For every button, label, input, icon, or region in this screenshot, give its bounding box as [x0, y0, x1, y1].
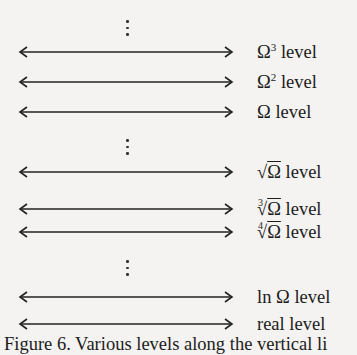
double-arrow-icon: [18, 222, 234, 242]
level-label: 4√Ω level: [257, 222, 321, 242]
vertical-ellipsis-bottom: [126, 260, 130, 280]
double-arrow-icon: [18, 102, 234, 122]
level-label: √Ω level: [257, 162, 321, 182]
vertical-ellipsis-middle: [126, 139, 130, 159]
double-arrow-icon: [18, 287, 234, 307]
level-label: real level: [257, 314, 325, 334]
level-row-omega-squared: Ω2 level: [0, 72, 357, 92]
level-label: 3√Ω level: [257, 199, 321, 219]
level-row-omega-cubed: Ω3 level: [0, 42, 357, 62]
level-row-real: real level: [0, 314, 357, 334]
level-row-fourth-root-omega: 4√Ω level: [0, 222, 357, 242]
level-label: ln Ω level: [257, 287, 330, 307]
level-row-omega: Ω level: [0, 102, 357, 122]
double-arrow-icon: [18, 72, 234, 92]
level-label: Ω2 level: [257, 72, 317, 92]
double-arrow-icon: [18, 42, 234, 62]
level-row-ln-omega: ln Ω level: [0, 287, 357, 307]
level-row-cbrt-omega: 3√Ω level: [0, 199, 357, 219]
level-label: Ω level: [257, 102, 311, 122]
double-arrow-icon: [18, 162, 234, 182]
figure-caption: Figure 6. Various levels along the verti…: [4, 334, 327, 355]
level-row-sqrt-omega: √Ω level: [0, 162, 357, 182]
level-label: Ω3 level: [257, 42, 317, 62]
vertical-ellipsis-top: [126, 20, 130, 40]
double-arrow-icon: [18, 314, 234, 334]
double-arrow-icon: [18, 199, 234, 219]
